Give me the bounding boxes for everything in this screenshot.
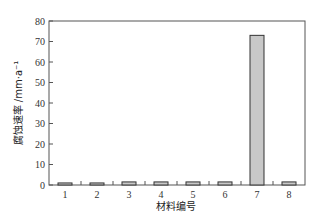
x-axis-title: 材料编号	[156, 200, 196, 212]
y-tick-label: 20	[35, 139, 45, 150]
bar-2	[90, 183, 104, 185]
x-tick-label: 7	[255, 189, 260, 200]
x-tick-label: 4	[159, 189, 164, 200]
y-tick-label: 0	[40, 180, 45, 191]
y-tick-label: 80	[35, 16, 45, 27]
y-tick-label: 10	[35, 159, 45, 170]
x-tick-label: 8	[287, 189, 292, 200]
bar-5	[186, 182, 200, 185]
y-axis-title: 腐蚀速率 /mm·a⁻¹	[12, 61, 24, 146]
x-tick-label: 6	[223, 189, 228, 200]
plot-area: 0102030405060708012345678	[35, 16, 305, 201]
x-tick-label: 5	[191, 189, 196, 200]
y-tick-label: 30	[35, 118, 45, 129]
bar-7	[250, 35, 264, 185]
bar-6	[218, 182, 232, 185]
y-tick-label: 40	[35, 98, 45, 109]
plot-frame	[49, 21, 305, 185]
bar-chart: 0102030405060708012345678 材料编号 腐蚀速率 /mm·…	[0, 0, 323, 221]
bar-1	[58, 183, 72, 185]
y-tick-label: 50	[35, 77, 45, 88]
y-tick-label: 70	[35, 36, 45, 47]
x-tick-label: 1	[63, 189, 68, 200]
bar-4	[154, 182, 168, 185]
y-tick-label: 60	[35, 57, 45, 68]
x-tick-label: 2	[95, 189, 100, 200]
bar-3	[122, 182, 136, 185]
x-tick-label: 3	[127, 189, 132, 200]
bar-8	[282, 182, 296, 185]
